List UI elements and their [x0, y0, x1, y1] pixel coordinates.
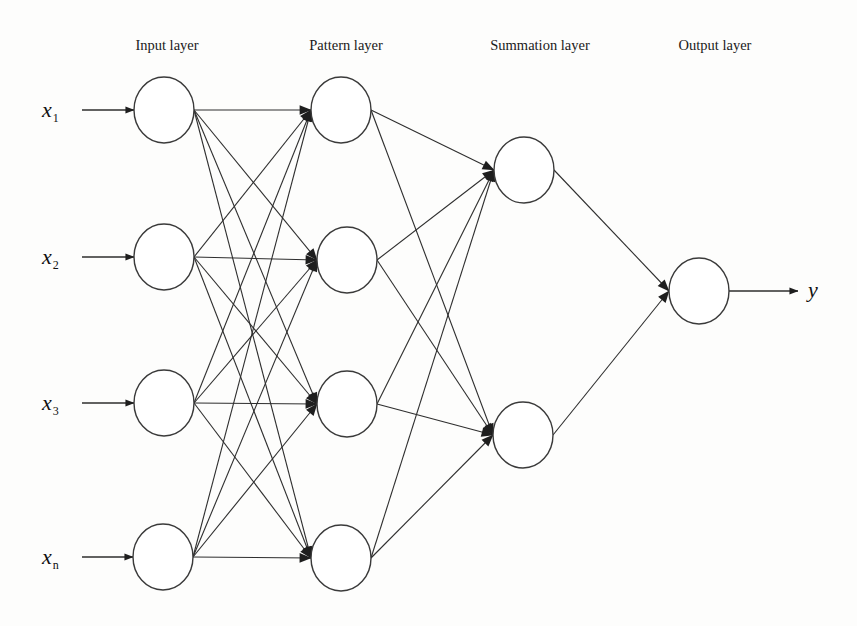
input-label-in1: x1	[41, 97, 59, 125]
node-pattern-p4	[311, 525, 371, 591]
layer-title-pattern: Pattern layer	[309, 37, 383, 53]
node-input-inn	[133, 524, 193, 590]
edge-p1-s1	[371, 110, 494, 170]
node-pattern-p3	[317, 371, 377, 437]
output-label-y: y	[806, 277, 818, 302]
node-input-in1	[134, 77, 194, 143]
layer-title-output: Output layer	[679, 37, 752, 53]
node-pattern-p1	[311, 77, 371, 143]
connections	[193, 110, 669, 558]
variable-labels: x1x2x3xny	[41, 97, 818, 572]
edge-p1-s2	[371, 110, 493, 435]
edge-p2-s1	[377, 170, 494, 260]
node-pattern-p2	[317, 227, 377, 293]
grnn-diagram: Input layerPattern layerSummation layerO…	[0, 0, 857, 626]
edge-p4-s2	[371, 435, 493, 558]
edge-s1-o1	[554, 170, 669, 291]
edge-in3-p3	[194, 403, 317, 404]
edge-inn-p2	[193, 260, 317, 557]
input-label-inn: xn	[41, 544, 59, 572]
edge-p4-s1	[371, 170, 494, 558]
edge-in3-p1	[194, 110, 311, 403]
node-input-in3	[134, 370, 194, 436]
io-arrows	[82, 110, 798, 557]
layer-title-summation: Summation layer	[490, 37, 590, 53]
input-label-in2: x2	[41, 244, 59, 272]
input-label-in3: x3	[41, 390, 59, 418]
nodes	[133, 77, 729, 591]
edge-inn-p4	[193, 557, 311, 558]
node-summation-s1	[494, 137, 554, 203]
node-summation-s2	[493, 402, 553, 468]
edge-s2-o1	[553, 291, 669, 435]
layer-title-input: Input layer	[135, 37, 198, 53]
node-input-in2	[134, 224, 194, 290]
layer-titles: Input layerPattern layerSummation layerO…	[135, 37, 751, 53]
edge-in1-p2	[194, 110, 317, 260]
node-output-o1	[669, 258, 729, 324]
